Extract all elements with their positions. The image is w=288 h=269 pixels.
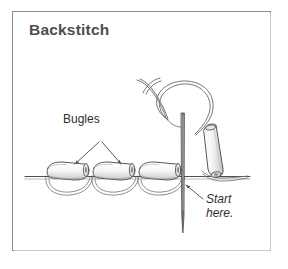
bugle-bead-1 [47, 162, 89, 180]
bugles-label: Bugles [63, 112, 100, 126]
bugle-bead-3 [139, 162, 181, 180]
bugle-bead-2 [93, 162, 135, 180]
start-here-line-2: here. [206, 206, 233, 220]
bugles-pointer [75, 142, 121, 164]
start-here-arrow [186, 185, 203, 199]
start-here-label: Start here. [206, 192, 233, 220]
backstitch-line-art [0, 0, 288, 269]
backstitch-diagram: Backstitch Bugles Start here. [0, 0, 288, 269]
needle [181, 113, 184, 233]
page-title: Backstitch [29, 21, 109, 39]
start-here-line-1: Start [206, 192, 233, 206]
threaded-bugle-bead [204, 124, 224, 178]
